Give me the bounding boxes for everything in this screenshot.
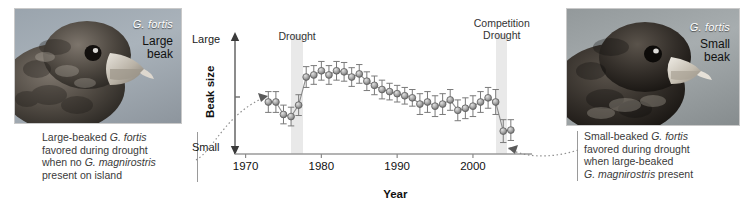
x-tick-label: 2000 <box>453 160 493 172</box>
y-axis-top-label: Large <box>192 33 220 45</box>
x-tick-label: 1990 <box>377 160 417 172</box>
photo-species-label-left: G. fortis <box>133 18 173 30</box>
caption-right-l4b: present <box>655 168 693 180</box>
beak-size-chart: Drought Competition Drought Large Small … <box>190 2 550 217</box>
photo-species-label-right: G. fortis <box>690 21 730 33</box>
caption-right-l1b: G. fortis <box>651 130 688 142</box>
photo-size-label-left: Large beak <box>142 35 173 61</box>
y-axis-title: Beak size <box>204 66 216 118</box>
size-label-line1: Small <box>700 37 730 51</box>
photo-size-label-right: Small beak <box>700 38 730 64</box>
caption-right-rule <box>577 131 578 181</box>
y-axis-bottom-label: Small <box>192 141 220 153</box>
caption-right-l4a: G. magnirostris <box>584 168 655 180</box>
x-tick-label: 1970 <box>226 160 266 172</box>
photo-small-beak-finch: G. fortis Small beak <box>566 8 740 126</box>
caption-right-l1a: Small-beaked <box>584 130 651 142</box>
caption-right: Small-beaked G. fortis favored during dr… <box>584 130 742 180</box>
caption-right-l3: when large-beaked <box>584 155 673 167</box>
size-label-line2: beak <box>147 47 173 61</box>
size-label-line1: Large <box>142 34 173 48</box>
caption-left-l4: present on island <box>42 169 122 181</box>
caption-left-l2: favored during drought <box>42 144 148 156</box>
size-label-line2: beak <box>704 50 730 64</box>
caption-left: Large-beaked G. fortis favored during dr… <box>42 131 192 181</box>
caption-left-l1a: Large-beaked <box>42 131 110 143</box>
x-tick-label: 1980 <box>301 160 341 172</box>
caption-left-l3b: G. magnirostris <box>85 156 156 168</box>
caption-left-l1b: G. fortis <box>110 131 147 143</box>
plot-area <box>190 2 550 217</box>
caption-right-l2: favored during drought <box>584 143 690 155</box>
x-axis-title: Year <box>383 188 407 200</box>
caption-left-l3a: when no <box>42 156 85 168</box>
photo-large-beak-finch: G. fortis Large beak <box>14 8 182 124</box>
